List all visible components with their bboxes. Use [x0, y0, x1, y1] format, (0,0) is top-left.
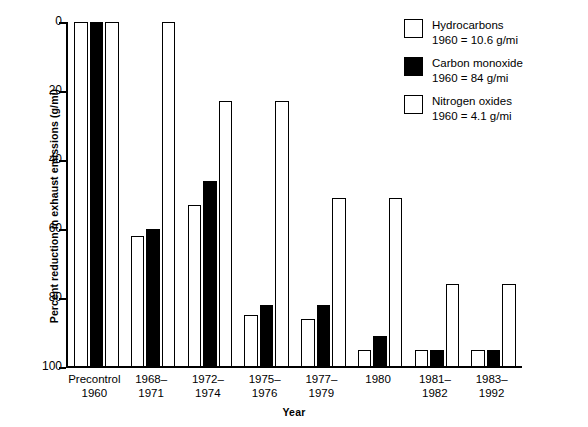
x-tick-label: 1975–1976 — [236, 372, 293, 400]
x-tick-label-line: 1960 — [66, 386, 123, 400]
bar — [275, 101, 289, 367]
bar-group — [244, 22, 289, 367]
bar — [430, 350, 444, 367]
legend-swatch-icon — [404, 57, 423, 76]
bar — [502, 284, 516, 367]
emissions-reduction-bar-chart: Percent reduction in exhaust emissions (… — [0, 0, 588, 427]
bar — [446, 284, 460, 367]
bar — [203, 181, 217, 367]
x-tick-label-line: Precontrol — [66, 372, 123, 386]
legend-baseline-value: 1960 = 84 g/mi — [432, 71, 584, 86]
x-tick-label-line: 1977– — [293, 372, 350, 386]
legend-text: Hydrocarbons1960 = 10.6 g/mi — [432, 18, 584, 47]
x-tick-label-line: 1971 — [123, 386, 180, 400]
x-axis-title: Year — [66, 406, 522, 418]
x-tick-label: Precontrol1960 — [66, 372, 123, 400]
x-tick-label-line: 1976 — [236, 386, 293, 400]
bar — [389, 198, 403, 367]
bar — [358, 350, 372, 367]
bar — [219, 101, 233, 367]
y-tick-label: 20 — [22, 83, 62, 97]
bar-group — [301, 22, 346, 367]
x-tick-label: 1968–1971 — [123, 372, 180, 400]
bar-group — [74, 22, 119, 367]
x-tick-label: 1972–1974 — [180, 372, 237, 400]
x-tick-label: 1983–1992 — [463, 372, 520, 400]
legend-label: Nitrogen oxides — [432, 94, 584, 109]
bar — [260, 305, 274, 367]
legend-baseline-value: 1960 = 4.1 g/mi — [432, 109, 584, 124]
y-tick-label: 40 — [22, 152, 62, 166]
y-tick-label: 0 — [22, 14, 62, 28]
bar — [317, 305, 331, 367]
x-tick-label-line: 1968– — [123, 372, 180, 386]
bar-group — [358, 22, 403, 367]
legend-text: Carbon monoxide1960 = 84 g/mi — [432, 56, 584, 85]
x-tick-label-line: 1983– — [463, 372, 520, 386]
bar — [332, 198, 346, 367]
x-tick-label-line: 1975– — [236, 372, 293, 386]
legend-item: Hydrocarbons1960 = 10.6 g/mi — [404, 18, 584, 47]
bar — [373, 336, 387, 367]
bar — [188, 205, 202, 367]
x-tick-label: 1981–1982 — [407, 372, 464, 400]
x-tick-label: 1980 — [350, 372, 407, 386]
y-tick-label: 80 — [22, 290, 62, 304]
legend-item: Carbon monoxide1960 = 84 g/mi — [404, 56, 584, 85]
x-tick-label-line: 1980 — [350, 372, 407, 386]
bar — [131, 236, 145, 367]
x-tick-label: 1977–1979 — [293, 372, 350, 400]
x-tick-label-line: 1972– — [180, 372, 237, 386]
legend-swatch-icon — [404, 19, 423, 38]
bar — [74, 22, 88, 367]
bar — [487, 350, 501, 367]
bar — [415, 350, 429, 367]
bar — [471, 350, 485, 367]
chart-legend: Hydrocarbons1960 = 10.6 g/miCarbon monox… — [404, 18, 584, 132]
legend-swatch-icon — [404, 95, 423, 114]
bar — [90, 22, 104, 367]
legend-text: Nitrogen oxides1960 = 4.1 g/mi — [432, 94, 584, 123]
legend-label: Hydrocarbons — [432, 18, 584, 33]
bar-group — [188, 22, 233, 367]
bar — [105, 22, 119, 367]
x-tick-label-line: 1992 — [463, 386, 520, 400]
bar-group — [131, 22, 176, 367]
y-tick-label: 100 — [22, 359, 62, 373]
x-tick-label-line: 1982 — [407, 386, 464, 400]
y-axis-title: Percent reduction in exhaust emissions (… — [48, 56, 60, 356]
bar — [301, 319, 315, 367]
x-tick-label-line: 1979 — [293, 386, 350, 400]
bar — [146, 229, 160, 367]
bar — [162, 22, 176, 367]
y-tick-label: 60 — [22, 221, 62, 235]
legend-label: Carbon monoxide — [432, 56, 584, 71]
x-tick-label-line: 1974 — [180, 386, 237, 400]
bar — [244, 315, 258, 367]
x-tick-label-line: 1981– — [407, 372, 464, 386]
legend-item: Nitrogen oxides1960 = 4.1 g/mi — [404, 94, 584, 123]
legend-baseline-value: 1960 = 10.6 g/mi — [432, 33, 584, 48]
